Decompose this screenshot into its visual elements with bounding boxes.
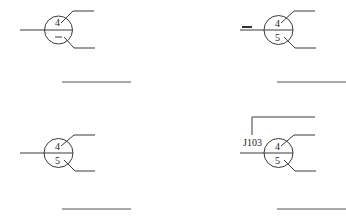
pin-label-bottom: 5: [55, 155, 60, 166]
pin-label-top: 4: [55, 17, 60, 28]
pin-label-top: 4: [275, 141, 280, 152]
pin-label-bottom: 5: [275, 32, 280, 43]
lower-lead: [284, 37, 316, 48]
lower-lead: [284, 160, 316, 171]
upper-lead: [281, 11, 315, 23]
connector-symbol-b: 4 5: [240, 11, 346, 82]
reference-bracket: [252, 117, 315, 135]
upper-lead: [61, 11, 94, 23]
pin-label-bottom: 5: [275, 155, 280, 166]
connector-symbol-c: 4 5: [20, 135, 131, 209]
pin-label-top: 4: [55, 141, 60, 152]
diagram-canvas: 4 4 5 4 5 J103 4 5: [0, 0, 346, 216]
connector-symbol-d: J103 4 5: [240, 117, 346, 209]
connector-symbol-a: 4: [20, 11, 131, 82]
lower-lead: [64, 37, 95, 48]
reference-designator: J103: [243, 137, 262, 148]
lower-lead: [64, 160, 95, 171]
pin-label-top: 4: [275, 18, 280, 29]
